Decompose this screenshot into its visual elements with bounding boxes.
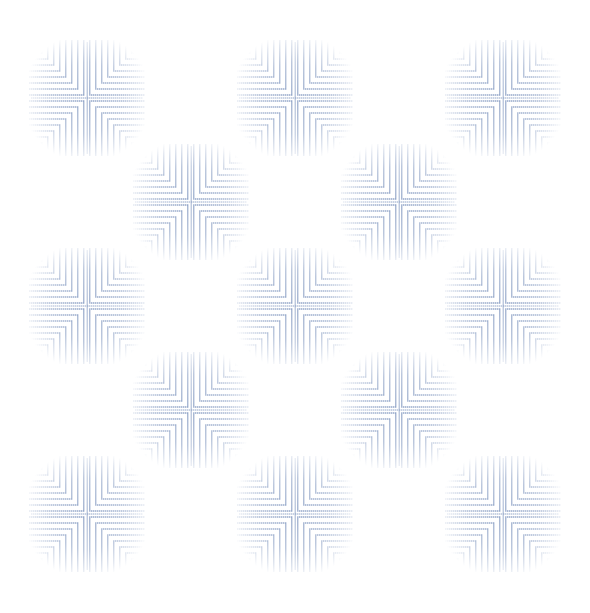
pattern-tile (233, 452, 357, 576)
pattern-tile (25, 452, 149, 576)
pattern-tile (441, 452, 565, 576)
pattern-canvas (0, 0, 590, 613)
